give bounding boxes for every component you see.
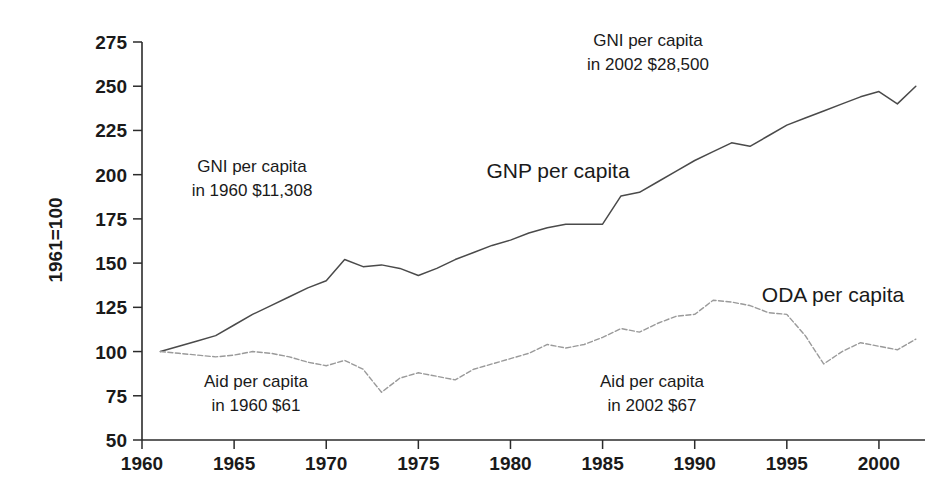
y-tick-label: 125: [95, 297, 127, 318]
x-tick-label: 1970: [305, 453, 347, 474]
x-tick-label: 1975: [397, 453, 440, 474]
annotation-line: in 2002 $67: [608, 396, 697, 415]
y-axis-title: 1961=100: [45, 197, 66, 282]
annotation-gni-1960: GNI per capitain 1960 $11,308: [192, 157, 313, 200]
y-tick-label: 150: [95, 253, 127, 274]
annotation-line: in 1960 $61: [212, 396, 301, 415]
y-axis: 5075100125150175200225250275: [95, 32, 142, 451]
x-tick-label: 2000: [858, 453, 900, 474]
x-axis: 196019651970197519801985199019952000: [121, 440, 925, 474]
annotation-line: Aid per capita: [204, 372, 308, 391]
y-tick-label: 200: [95, 165, 127, 186]
chart-container: 5075100125150175200225250275 19601965197…: [0, 0, 940, 496]
line-chart: 5075100125150175200225250275 19601965197…: [0, 0, 940, 496]
series-labels: GNP per capitaODA per capita: [486, 159, 904, 306]
annotation-line: Aid per capita: [600, 372, 704, 391]
annotation-line: GNI per capita: [197, 157, 307, 176]
x-tick-label: 1995: [766, 453, 809, 474]
annotation-line: GNI per capita: [593, 31, 703, 50]
y-tick-label: 225: [95, 120, 127, 141]
series-lines: [160, 86, 915, 392]
annotations: GNI per capitain 1960 $11,308GNI per cap…: [192, 31, 709, 415]
x-tick-label: 1985: [581, 453, 624, 474]
x-tick-label: 1960: [121, 453, 163, 474]
x-tick-label: 1965: [213, 453, 256, 474]
annotation-gni-2002: GNI per capitain 2002 $28,500: [587, 31, 709, 74]
series-label-oda-label: ODA per capita: [762, 283, 905, 306]
y-tick-label: 175: [95, 209, 127, 230]
y-tick-label: 75: [106, 386, 128, 407]
y-tick-label: 250: [95, 76, 127, 97]
x-tick-label: 1990: [674, 453, 716, 474]
annotation-aid-1960: Aid per capitain 1960 $61: [204, 372, 308, 415]
x-tick-label: 1980: [489, 453, 531, 474]
annotation-line: in 2002 $28,500: [587, 55, 709, 74]
y-tick-label: 100: [95, 342, 127, 363]
annotation-line: in 1960 $11,308: [192, 181, 313, 200]
y-tick-label: 275: [95, 32, 127, 53]
y-tick-label: 50: [106, 430, 127, 451]
annotation-aid-2002: Aid per capitain 2002 $67: [600, 372, 704, 415]
series-path-gnp: [160, 86, 915, 351]
series-label-gnp-label: GNP per capita: [486, 159, 630, 182]
